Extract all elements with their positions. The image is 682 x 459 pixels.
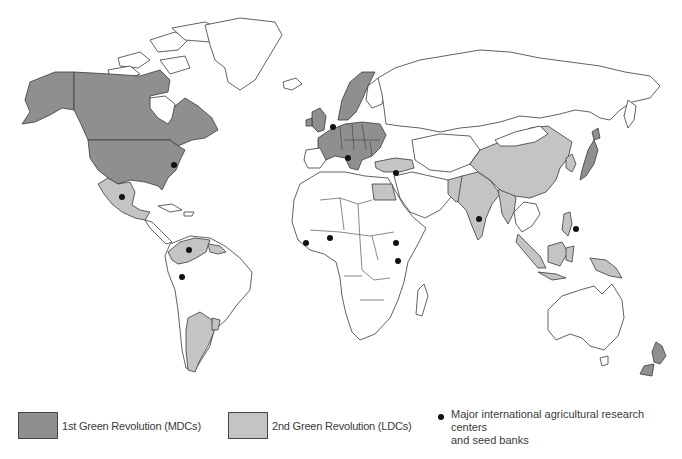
central-america bbox=[145, 220, 172, 244]
sulawesi bbox=[566, 246, 574, 262]
cuba bbox=[158, 204, 182, 212]
greenland bbox=[205, 18, 282, 90]
research-center-marker bbox=[119, 194, 125, 200]
malaysia-sumatra bbox=[516, 234, 546, 268]
egypt bbox=[372, 184, 396, 200]
central-asia bbox=[412, 134, 480, 172]
legend-item-ldc: 2nd Green Revolution (LDCs) bbox=[228, 412, 412, 439]
research-center-marker bbox=[393, 170, 399, 176]
united-kingdom bbox=[312, 108, 326, 132]
research-center-marker bbox=[186, 247, 192, 253]
research-center-dot-icon bbox=[438, 414, 444, 420]
russia bbox=[378, 50, 660, 132]
research-center-marker bbox=[345, 155, 351, 161]
australia bbox=[548, 284, 624, 350]
research-center-marker bbox=[171, 162, 177, 168]
research-center-marker bbox=[179, 274, 185, 280]
research-center-marker bbox=[330, 124, 336, 130]
legend-label-centers: Major international agricultural researc… bbox=[451, 408, 681, 447]
tasmania bbox=[600, 356, 608, 366]
iceland bbox=[283, 78, 302, 90]
ldc-swatch bbox=[228, 412, 268, 439]
research-center-marker bbox=[476, 216, 482, 222]
turkey bbox=[375, 158, 414, 172]
legend-label-ldc: 2nd Green Revolution (LDCs) bbox=[272, 420, 412, 432]
ireland bbox=[306, 118, 312, 126]
canada bbox=[74, 70, 218, 146]
hokkaido bbox=[592, 128, 600, 140]
research-center-marker bbox=[393, 240, 399, 246]
hispaniola bbox=[184, 212, 194, 216]
research-center-marker bbox=[395, 258, 401, 264]
korea bbox=[566, 154, 576, 172]
new-zealand-south bbox=[640, 364, 654, 376]
legend-centers-line2: and seed banks bbox=[451, 434, 681, 447]
argentina bbox=[186, 312, 214, 372]
japan bbox=[580, 140, 598, 180]
new-zealand bbox=[652, 342, 666, 364]
world-map bbox=[0, 0, 682, 405]
uruguay bbox=[212, 318, 220, 330]
mdc-swatch bbox=[18, 412, 58, 439]
new-guinea bbox=[590, 258, 622, 278]
research-center-marker bbox=[327, 235, 333, 241]
legend-label-mdc: 1st Green Revolution (MDCs) bbox=[62, 420, 201, 432]
map-legend: 1st Green Revolution (MDCs) 2nd Green Re… bbox=[0, 412, 682, 452]
southeast-asia bbox=[514, 202, 540, 232]
madagascar bbox=[416, 284, 428, 316]
java bbox=[538, 272, 566, 280]
legend-item-mdc: 1st Green Revolution (MDCs) bbox=[18, 412, 201, 439]
borneo bbox=[548, 242, 568, 266]
legend-item-centers: Major international agricultural researc… bbox=[438, 408, 681, 447]
arctic-islands bbox=[108, 22, 222, 80]
research-center-marker bbox=[303, 240, 309, 246]
research-center-marker bbox=[573, 226, 579, 232]
philippines bbox=[562, 212, 572, 236]
alaska bbox=[22, 72, 74, 124]
legend-centers-line1: Major international agricultural researc… bbox=[451, 408, 681, 434]
